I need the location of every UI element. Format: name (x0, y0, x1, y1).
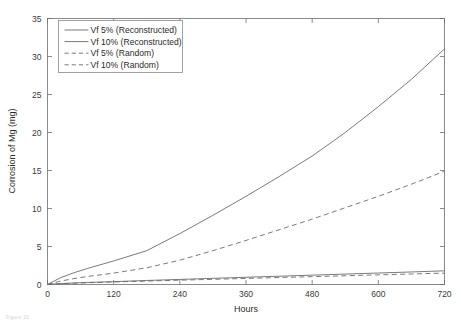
y-tick-label: 20 (32, 128, 42, 138)
y-tick-label: 35 (32, 14, 42, 24)
y-tick-label: 10 (32, 204, 42, 214)
x-tick-label: 0 (45, 289, 50, 299)
y-tick-label: 5 (37, 242, 42, 252)
legend-label: Vf 10% (Reconstructed) (91, 37, 182, 47)
figure-container: 05101520253035 0120240360480600720 Hours… (0, 0, 461, 324)
x-tick-label: 720 (437, 289, 451, 299)
legend-label: Vf 10% (Random) (91, 60, 159, 70)
y-tick-label: 30 (32, 52, 42, 62)
series-line (48, 171, 445, 284)
x-tick-label: 480 (305, 289, 319, 299)
chart-legend: Vf 5% (Reconstructed)Vf 10% (Reconstruct… (59, 21, 183, 73)
x-tick-label: 240 (173, 289, 187, 299)
y-tick-label: 25 (32, 90, 42, 100)
legend-label: Vf 5% (Random) (91, 48, 155, 58)
series-line (48, 49, 445, 285)
x-axis-label: Hours (234, 304, 259, 314)
legend-label: Vf 5% (Reconstructed) (91, 25, 178, 35)
x-tick-label: 360 (239, 289, 253, 299)
x-tick-label: 600 (371, 289, 385, 299)
y-axis-label: Corrosion of Mg (mg) (7, 108, 17, 193)
y-tick-label: 0 (37, 280, 42, 290)
figure-caption: Figure 10. (6, 314, 456, 323)
series-layer (48, 49, 445, 285)
corrosion-line-chart: 05101520253035 0120240360480600720 Hours… (0, 0, 461, 324)
x-tick-label: 120 (107, 289, 121, 299)
y-tick-label: 15 (32, 166, 42, 176)
